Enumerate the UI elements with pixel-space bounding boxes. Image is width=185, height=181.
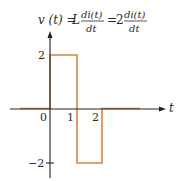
voltage-waveform-figure: v (t) = L di(t) dt = 2 di(t) dt 2 −2 0 1… (0, 0, 185, 181)
axes (10, 31, 166, 178)
equation-coef-L: L (71, 13, 80, 27)
x-tick-label-2: 2 (92, 111, 99, 124)
equation-frac1-numerator: di(t) (81, 9, 103, 20)
equation-coef-2: 2 (116, 13, 124, 27)
equation-lhs: v (t) = (38, 13, 77, 27)
x-axis-arrow-icon (159, 107, 166, 112)
x-tick-label-1: 1 (67, 111, 74, 124)
y-tick-label-2: 2 (38, 49, 45, 62)
equation: v (t) = L di(t) dt = 2 di(t) dt (38, 9, 147, 34)
x-tick-label-0: 0 (40, 111, 47, 124)
y-tick-label-neg2: −2 (28, 157, 44, 170)
x-axis-label-t: t (169, 101, 174, 115)
y-axis-arrow-icon (48, 31, 53, 38)
equation-frac2-denominator: dt (129, 23, 140, 34)
equation-frac1-denominator: dt (86, 23, 97, 34)
equation-frac2-numerator: di(t) (124, 9, 146, 20)
